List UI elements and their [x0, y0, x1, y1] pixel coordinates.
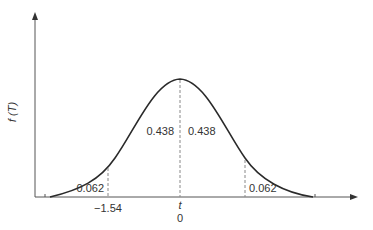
y-axis-arrow-icon [32, 12, 38, 20]
x-tick-label-zero: 0 [177, 212, 183, 224]
x-axis-arrow-icon [350, 194, 358, 200]
x-variable-label: t [178, 199, 182, 211]
right-tail-area-label: 0.062 [249, 182, 277, 194]
y-axis-label: f (T) [6, 102, 18, 122]
x-tick-label-left-cut: −1.54 [94, 202, 122, 214]
left-tail-area-label: 0.062 [76, 182, 104, 194]
right-center-area-label: 0.438 [188, 125, 216, 137]
normal-distribution-chart: f (T) 0.062 0.438 0.438 0.062 −1.54 t 0 [0, 0, 373, 230]
density-curve [50, 79, 313, 197]
left-center-area-label: 0.438 [146, 125, 174, 137]
